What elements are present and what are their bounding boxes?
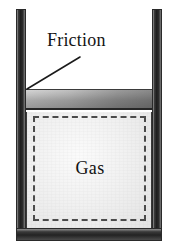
gas-label: Gas <box>0 158 180 179</box>
cylinder-left-wall <box>16 9 26 241</box>
piston-block <box>26 89 152 110</box>
friction-leader-line <box>27 57 80 89</box>
cylinder-base <box>16 228 162 241</box>
cylinder-right-wall <box>152 9 162 241</box>
friction-label: Friction <box>47 30 106 51</box>
piston-friction-diagram: Gas Friction <box>0 0 180 250</box>
